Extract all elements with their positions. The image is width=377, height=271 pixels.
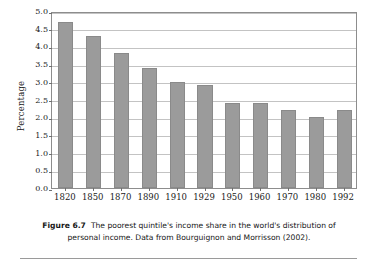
y-tick-mark: [49, 190, 52, 191]
y-tick-label: 1.5: [26, 132, 48, 140]
x-tick-label: 1910: [162, 192, 190, 202]
x-tick-label: 1890: [134, 192, 162, 202]
x-tick-label: 1970: [274, 192, 302, 202]
y-tick-label: 3.0: [26, 79, 48, 87]
bar: [58, 22, 73, 188]
x-tick-label: 1992: [329, 192, 357, 202]
x-tick-mark: [288, 188, 289, 191]
y-tick-label: 0.0: [26, 185, 48, 193]
bar: [225, 103, 240, 188]
x-tick-label: 1980: [301, 192, 329, 202]
bar-chart: Percentage 5.04.54.03.53.02.52.01.51.00.…: [0, 0, 377, 215]
x-tick-label: 1820: [51, 192, 79, 202]
y-axis-tick-labels: 5.04.54.03.53.02.52.01.51.00.50.0: [26, 12, 48, 189]
x-tick-label: 1850: [79, 192, 107, 202]
bar: [309, 117, 324, 188]
figure-caption-text: The poorest quintile's income share in t…: [68, 221, 336, 242]
x-tick-label: 1950: [218, 192, 246, 202]
y-tick-label: 2.5: [26, 97, 48, 105]
x-tick-mark: [344, 188, 345, 191]
bottom-divider: [20, 258, 357, 259]
y-tick-label: 4.0: [26, 43, 48, 51]
x-tick-mark: [121, 188, 122, 191]
bar: [337, 110, 352, 188]
x-tick-mark: [177, 188, 178, 191]
bar: [281, 110, 296, 188]
y-tick-label: 1.0: [26, 150, 48, 158]
bar: [170, 82, 185, 188]
bar: [86, 36, 101, 188]
x-tick-mark: [149, 188, 150, 191]
y-tick-label: 3.5: [26, 61, 48, 69]
y-axis-title-text: Percentage: [16, 81, 26, 132]
bar: [253, 103, 268, 188]
y-tick-label: 5.0: [26, 8, 48, 16]
figure-caption: Figure 6.7The poorest quintile's income …: [36, 220, 342, 244]
bar: [114, 53, 129, 188]
x-tick-mark: [93, 188, 94, 191]
bar: [197, 85, 212, 188]
bar: [142, 68, 157, 188]
x-tick-mark: [205, 188, 206, 191]
x-tick-label: 1929: [190, 192, 218, 202]
x-tick-label: 1870: [107, 192, 135, 202]
y-tick-label: 2.0: [26, 114, 48, 122]
figure-caption-label: Figure 6.7: [42, 221, 86, 230]
x-tick-mark: [65, 188, 66, 191]
x-tick-mark: [232, 188, 233, 191]
x-tick-label: 1960: [246, 192, 274, 202]
bars-group: [52, 13, 356, 188]
figure-container: Percentage 5.04.54.03.53.02.52.01.51.00.…: [0, 0, 377, 271]
x-tick-mark: [260, 188, 261, 191]
y-tick-label: 0.5: [26, 167, 48, 175]
y-tick-label: 4.5: [26, 26, 48, 34]
x-tick-mark: [316, 188, 317, 191]
x-axis-tick-labels: 1820185018701890191019291950196019701980…: [51, 192, 357, 206]
plot-area: [51, 12, 357, 189]
